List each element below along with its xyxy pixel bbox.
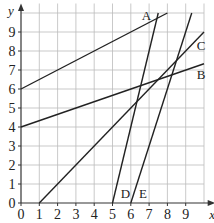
series-label-a: A: [142, 8, 152, 23]
y-axis-arrow-icon: [18, 4, 24, 12]
y-tick-label: 1: [9, 177, 16, 192]
series-label-b: B: [197, 67, 206, 82]
series-label-d: D: [121, 186, 130, 201]
y-tick-label: 3: [9, 139, 16, 154]
x-tick-label: 5: [109, 207, 116, 222]
y-tick-label: 4: [9, 120, 16, 135]
x-tick-label: 6: [127, 207, 134, 222]
x-tick-label: 3: [72, 207, 79, 222]
y-tick-label: 9: [9, 25, 16, 40]
series-label-c: C: [197, 38, 206, 53]
y-tick-label: 8: [9, 44, 16, 59]
y-tick-label: 2: [9, 158, 16, 173]
y-tick-label: 6: [9, 82, 16, 97]
x-tick-label: 0: [18, 207, 25, 222]
x-tick-label: 1: [36, 207, 43, 222]
x-tick-label: 7: [146, 207, 153, 222]
y-axis-label: y: [6, 3, 14, 18]
y-tick-label: 7: [9, 63, 16, 78]
series-label-e: E: [139, 186, 147, 201]
x-axis-label: x: [208, 207, 214, 222]
x-axis-arrow-icon: [208, 200, 214, 206]
y-tick-label: 0: [9, 196, 16, 211]
x-tick-label: 2: [54, 207, 61, 222]
y-tick-label: 5: [9, 101, 16, 116]
x-tick-label: 8: [164, 207, 171, 222]
x-tick-label: 4: [91, 207, 98, 222]
line-chart: 01234567890123456789xyABCDE: [0, 0, 214, 223]
x-tick-label: 9: [182, 207, 189, 222]
series-line-c: [39, 32, 204, 203]
